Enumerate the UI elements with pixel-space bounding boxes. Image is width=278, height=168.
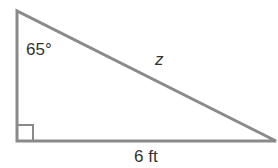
base-label: 6 ft — [134, 148, 158, 165]
right-angle-marker — [17, 125, 33, 141]
angle-label: 65° — [26, 41, 52, 58]
triangle-figure — [0, 0, 278, 168]
hypotenuse-label: z — [155, 51, 164, 68]
right-triangle — [17, 11, 276, 141]
